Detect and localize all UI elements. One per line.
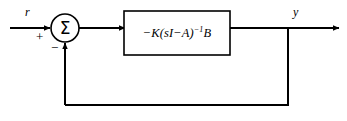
- expr-minus: −: [173, 26, 182, 40]
- block-diagram-canvas: r y + − Σ −K(sI−A)−1B: [0, 0, 347, 121]
- output-signal-label: y: [293, 6, 298, 18]
- sigma-icon: Σ: [51, 14, 79, 42]
- expr-lead: −K(: [143, 26, 164, 40]
- input-signal-label: r: [25, 6, 30, 18]
- summing-junction-plus-sign: +: [36, 30, 43, 43]
- expr-exponent: −1: [194, 25, 204, 34]
- summing-junction-minus-sign: −: [51, 41, 58, 54]
- plant-block-expression: −K(sI−A)−1B: [124, 11, 230, 55]
- expr-a: A: [182, 26, 190, 40]
- expr-b: B: [203, 26, 211, 40]
